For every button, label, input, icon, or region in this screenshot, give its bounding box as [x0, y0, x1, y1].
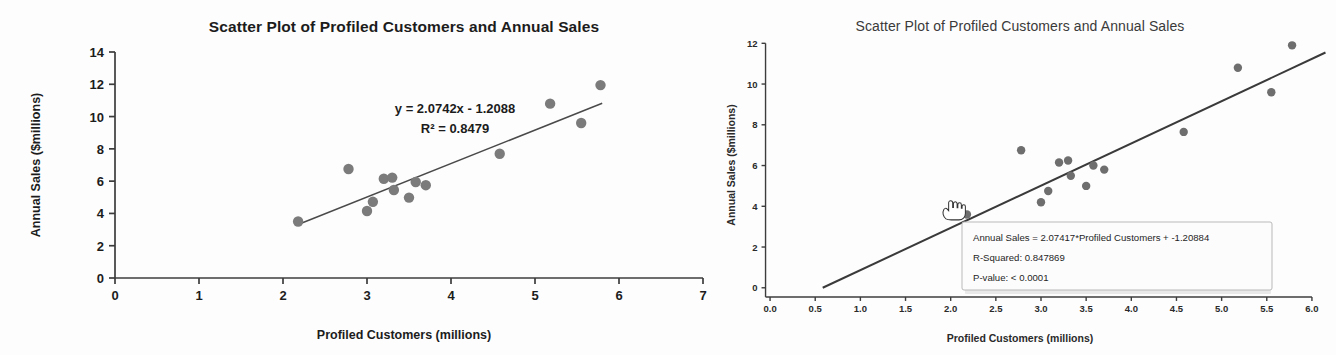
x-tick-label: 2.0: [944, 303, 957, 314]
y-tick-label: 2: [752, 242, 757, 253]
y-tick-label: 14: [90, 45, 105, 60]
right-x-axis-title: Profiled Customers (millions): [947, 332, 1093, 344]
y-tick-label: 4: [752, 201, 758, 212]
data-point[interactable]: [343, 164, 353, 174]
left-equation-line1: y = 2.0742x - 1.2088: [395, 101, 515, 116]
tooltip-p-value-line: P-value: < 0.0001: [973, 272, 1048, 283]
data-point[interactable]: [1017, 146, 1025, 154]
tooltip-r-squared-line: R-Squared: 0.847869: [973, 252, 1065, 263]
x-tick-label: 5: [531, 288, 538, 303]
tooltip-equation-line: Annual Sales = 2.07417*Profiled Customer…: [973, 232, 1210, 243]
x-tick-label: 1: [195, 288, 202, 303]
x-tick-label: 6.0: [1305, 303, 1318, 314]
data-point[interactable]: [362, 206, 372, 216]
left-axes: [109, 52, 703, 284]
x-tick-label: 2: [279, 288, 286, 303]
data-point[interactable]: [1179, 128, 1187, 136]
left-chart-panel: Scatter Plot of Profiled Customers and A…: [0, 0, 712, 355]
data-point[interactable]: [389, 185, 399, 195]
data-point[interactable]: [404, 192, 414, 202]
y-tick-label: 8: [752, 119, 757, 130]
left-equation-line2: R² = 0.8479: [421, 121, 489, 136]
y-tick-label: 0: [752, 282, 757, 293]
right-x-tick-labels: 0.00.51.01.52.02.53.03.54.04.55.05.56.0: [763, 303, 1318, 314]
data-point[interactable]: [495, 149, 505, 159]
data-point[interactable]: [411, 177, 421, 187]
data-point[interactable]: [421, 180, 431, 190]
data-point[interactable]: [1267, 88, 1275, 96]
y-tick-label: 12: [747, 38, 758, 49]
data-point[interactable]: [595, 80, 605, 90]
y-tick-label: 10: [747, 79, 758, 90]
right-scatter-chart: Scatter Plot of Profiled Customers and A…: [712, 0, 1336, 355]
x-tick-label: 3.5: [1080, 303, 1094, 314]
data-point[interactable]: [1044, 187, 1052, 195]
data-point[interactable]: [1064, 156, 1072, 164]
x-tick-label: 0: [111, 288, 118, 303]
left-y-axis-title: Annual Sales ($millions): [29, 93, 43, 237]
x-tick-label: 6: [615, 288, 622, 303]
x-tick-label: 1.5: [899, 303, 913, 314]
right-y-axis-title: Annual Sales ($millions): [725, 104, 737, 225]
data-point[interactable]: [293, 216, 303, 226]
left-x-tick-labels: 01234567: [111, 288, 706, 303]
x-tick-label: 4.0: [1125, 303, 1138, 314]
y-tick-label: 0: [97, 271, 104, 286]
x-tick-label: 0.5: [809, 303, 823, 314]
y-tick-label: 8: [97, 142, 104, 157]
x-tick-label: 4.5: [1170, 303, 1184, 314]
data-point[interactable]: [387, 172, 397, 182]
data-point[interactable]: [576, 118, 586, 128]
data-point[interactable]: [1089, 161, 1097, 169]
x-tick-label: 3: [363, 288, 370, 303]
screenshot-page: Scatter Plot of Profiled Customers and A…: [0, 0, 1336, 355]
right-chart-panel: Scatter Plot of Profiled Customers and A…: [712, 0, 1336, 355]
left-y-tick-labels: 02468101214: [90, 45, 105, 286]
y-tick-label: 6: [752, 160, 757, 171]
left-scatter-chart: Scatter Plot of Profiled Customers and A…: [0, 0, 712, 355]
y-tick-label: 2: [97, 239, 104, 254]
data-point[interactable]: [368, 197, 378, 207]
x-tick-label: 5.0: [1215, 303, 1228, 314]
y-tick-label: 10: [90, 110, 104, 125]
left-x-axis-title: Profiled Customers (millions): [317, 328, 491, 342]
x-tick-label: 4: [447, 288, 455, 303]
data-point[interactable]: [1082, 182, 1090, 190]
data-point[interactable]: [1037, 198, 1045, 206]
left-chart-title: Scatter Plot of Profiled Customers and A…: [209, 18, 599, 35]
data-point[interactable]: [1100, 165, 1108, 173]
right-chart-title: Scatter Plot of Profiled Customers and A…: [856, 18, 1185, 34]
y-tick-label: 12: [90, 77, 104, 92]
data-point[interactable]: [545, 98, 555, 108]
y-tick-label: 6: [97, 174, 104, 189]
data-point[interactable]: [1055, 158, 1063, 166]
right-data-points: [963, 41, 1297, 218]
data-point[interactable]: [1288, 41, 1296, 49]
pointing-hand-cursor-icon: [943, 201, 965, 220]
data-point[interactable]: [1067, 172, 1075, 180]
x-tick-label: 3.0: [1034, 303, 1047, 314]
right-y-tick-labels: 024681012: [747, 38, 758, 293]
regression-tooltip[interactable]: Annual Sales = 2.07417*Profiled Customer…: [962, 222, 1272, 294]
x-tick-label: 7: [699, 288, 706, 303]
x-tick-label: 0.0: [763, 303, 776, 314]
x-tick-label: 2.5: [989, 303, 1003, 314]
x-tick-label: 5.5: [1260, 303, 1274, 314]
x-tick-label: 1.0: [854, 303, 867, 314]
data-point[interactable]: [1234, 64, 1242, 72]
y-tick-label: 4: [97, 206, 105, 221]
